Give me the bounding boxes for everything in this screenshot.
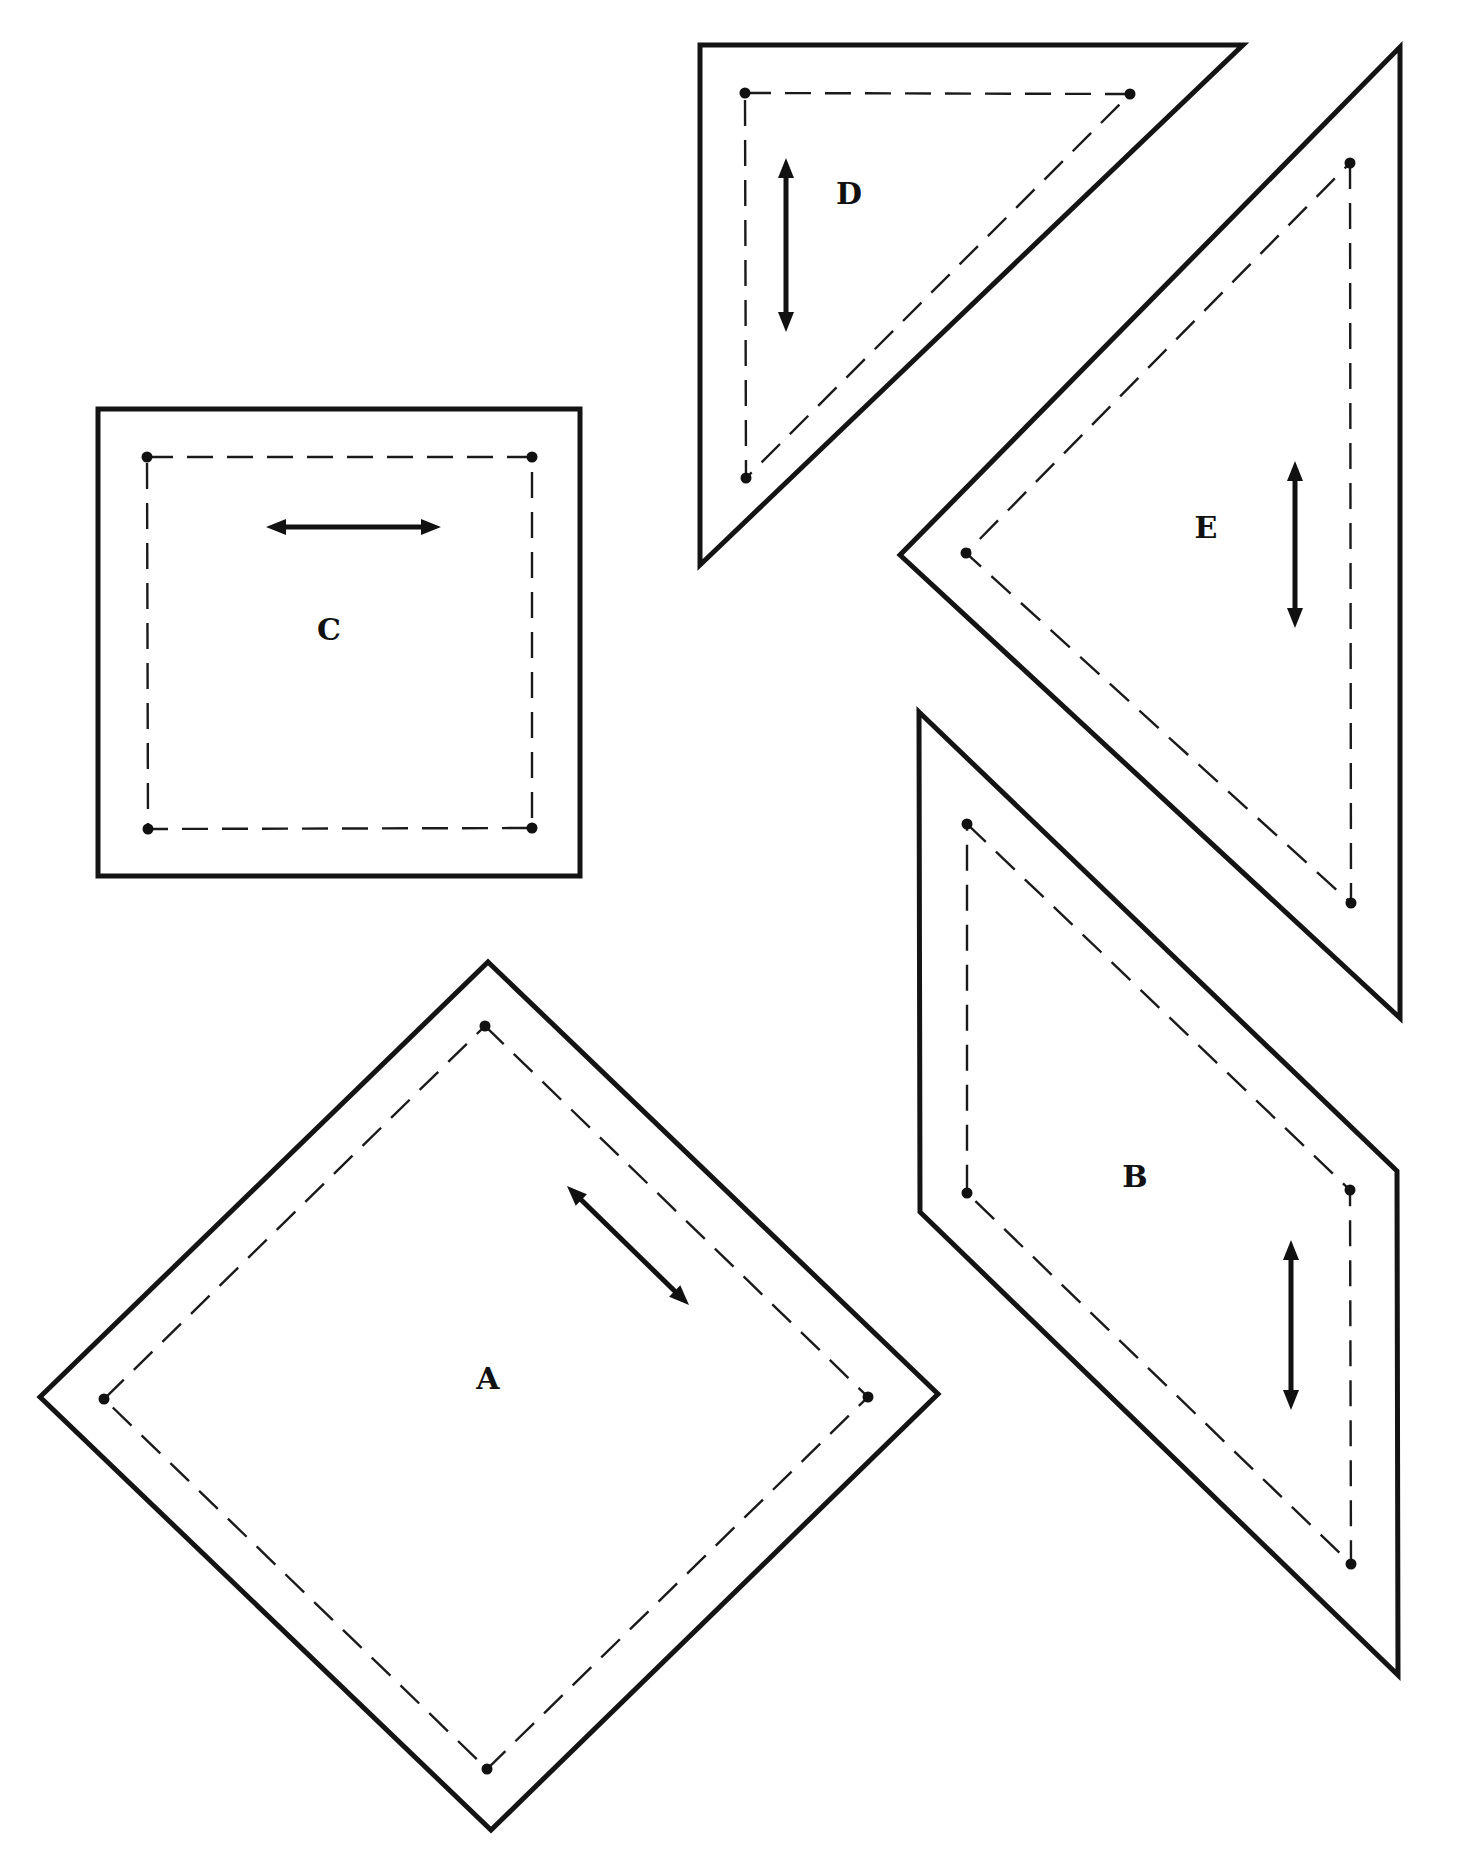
corner-dot	[142, 452, 153, 463]
piece-a	[40, 962, 938, 1830]
corner-dot	[962, 819, 973, 830]
piece-label-a: A	[476, 1364, 499, 1394]
piece-label-e: E	[1195, 513, 1218, 543]
corner-dot	[480, 1021, 491, 1032]
grainline-arrow-icon	[266, 519, 441, 535]
corner-dot	[1125, 89, 1136, 100]
cutting-line	[700, 45, 1243, 565]
grainline-arrow-icon	[778, 158, 794, 332]
corner-dot	[1346, 898, 1357, 909]
corner-dot	[1346, 1559, 1357, 1570]
corner-dot	[143, 824, 154, 835]
seam-line	[967, 824, 1351, 1564]
corner-dot	[962, 1188, 973, 1199]
cutting-line	[900, 47, 1400, 1018]
corner-dot	[741, 473, 752, 484]
piece-label-d: D	[836, 179, 862, 209]
piece-label-b: B	[1122, 1162, 1147, 1192]
piece-d	[700, 45, 1243, 565]
cutting-line	[919, 712, 1398, 1675]
piece-label-c: C	[317, 615, 341, 645]
grainline-arrow-icon	[1287, 461, 1303, 628]
piece-e	[900, 47, 1400, 1018]
corner-dot	[740, 88, 751, 99]
seam-line	[104, 1026, 868, 1769]
corner-dot	[1345, 158, 1356, 169]
pattern-sheet	[0, 0, 1467, 1871]
cutting-line	[40, 962, 938, 1830]
piece-b	[919, 712, 1398, 1675]
corner-dot	[527, 823, 538, 834]
corner-dot	[527, 452, 538, 463]
corner-dot	[1345, 1185, 1356, 1196]
grainline-arrow-icon	[567, 1186, 689, 1305]
corner-dot	[482, 1764, 493, 1775]
seam-line	[745, 93, 1130, 478]
corner-dot	[961, 548, 972, 559]
grainline-arrow-icon	[1283, 1240, 1299, 1410]
corner-dot	[99, 1394, 110, 1405]
corner-dot	[863, 1392, 874, 1403]
